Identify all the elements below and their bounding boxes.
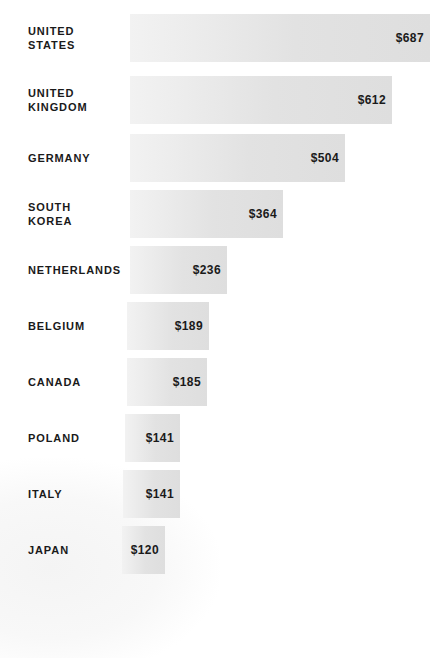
bar-row: POLAND$141: [0, 414, 417, 462]
category-label: ITALY: [28, 487, 62, 501]
bar-value-label: $189: [163, 319, 203, 333]
bar-row: UNITED STATES$687: [0, 14, 417, 62]
bar-row: BELGIUM$189: [0, 302, 417, 350]
category-label: UNITED STATES: [28, 24, 75, 52]
bar-row: JAPAN$120: [0, 526, 417, 574]
category-label: GERMANY: [28, 151, 91, 165]
category-label: POLAND: [28, 431, 80, 445]
category-label: BELGIUM: [28, 319, 85, 333]
category-label: SOUTH KOREA: [28, 200, 72, 228]
bar-row: CANADA$185: [0, 358, 417, 406]
bar-value-label: $687: [384, 31, 424, 45]
category-label: NETHERLANDS: [28, 263, 121, 277]
bar-row: SOUTH KOREA$364: [0, 190, 417, 238]
bar-value-label: $236: [181, 263, 221, 277]
bar-value-label: $141: [134, 487, 174, 501]
bar-row: GERMANY$504: [0, 134, 417, 182]
bar-value-label: $364: [237, 207, 277, 221]
bar-value-label: $120: [119, 543, 159, 557]
category-label: CANADA: [28, 375, 81, 389]
bar-value-label: $612: [346, 93, 386, 107]
category-label: UNITED KINGDOM: [28, 86, 87, 114]
bar-value-label: $185: [161, 375, 201, 389]
category-label: JAPAN: [28, 543, 69, 557]
bar-value-label: $141: [134, 431, 174, 445]
bar-row: ITALY$141: [0, 470, 417, 518]
bar-row: NETHERLANDS$236: [0, 246, 417, 294]
bar-value-label: $504: [299, 151, 339, 165]
bar-row: UNITED KINGDOM$612: [0, 76, 417, 124]
